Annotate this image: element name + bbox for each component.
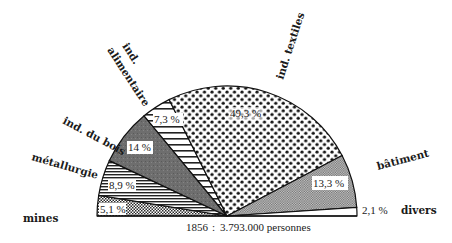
label-metallurgie: métallurgie (30, 150, 100, 181)
pct-label-mines: 5,1 % (100, 203, 126, 215)
semicircle-pie-chart: 5,1 % 8,9 % 14 % 7,3 % 49,3 % 13,3 % 2,1… (0, 0, 452, 243)
label-textiles: ind. textiles (273, 11, 306, 81)
pct-label-alimentaire: 7,3 % (154, 113, 180, 125)
pct-box-batiment: 13,3 % (312, 176, 348, 190)
pct-label-bois: 14 % (128, 141, 151, 153)
label-divers: divers (401, 204, 437, 216)
pct-box-bois: 14 % (127, 141, 153, 154)
label-bois: ind. du bois (61, 114, 128, 157)
pct-label-batiment: 13,3 % (313, 177, 344, 189)
pct-box-metallurgie: 8,9 % (108, 179, 136, 192)
pct-box-textiles: 49,3 % (229, 107, 263, 120)
caption-separator: : (212, 221, 215, 233)
pct-label-textiles: 49,3 % (230, 107, 261, 119)
label-batiment: bâtiment (375, 147, 430, 172)
chart-caption: 1856 : 3.793.000 personnes (186, 221, 311, 233)
caption-text: 3.793.000 personnes (220, 221, 311, 233)
label-mines: mines (23, 212, 58, 224)
pct-box-alimentaire: 7,3 % (153, 113, 183, 126)
pct-label-divers: 2,1 % (362, 204, 388, 216)
pct-label-metallurgie: 8,9 % (109, 179, 135, 191)
caption-year: 1856 (186, 221, 209, 233)
pct-box-mines: 5,1 % (99, 203, 126, 215)
